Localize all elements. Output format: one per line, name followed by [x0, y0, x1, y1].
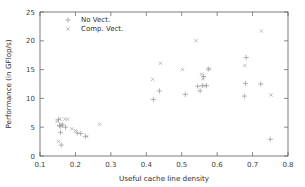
x-axis-ticks: 0.10.20.30.40.50.60.70.8: [34, 12, 293, 169]
data-point-cross: [201, 77, 204, 80]
series-plus: [56, 55, 273, 148]
x-tick-label: 0.5: [176, 161, 187, 169]
x-axis-title: Useful cache line density: [119, 174, 210, 183]
series-cross: [55, 29, 272, 143]
data-point-plus: [268, 137, 273, 142]
legend-label: No Vect.: [81, 16, 110, 24]
data-point-cross: [66, 27, 69, 30]
y-tick-label: 20: [26, 37, 35, 45]
x-tick-label: 0.4: [141, 161, 153, 169]
y-tick-label: 10: [26, 95, 35, 103]
data-point-cross: [194, 39, 197, 42]
y-axis-ticks: 0510152025: [26, 9, 288, 161]
data-point-plus: [78, 131, 83, 136]
x-tick-label: 0.6: [212, 161, 224, 169]
x-tick-label: 0.8: [282, 161, 293, 169]
scatter-chart-figure: 0.10.20.30.40.50.60.70.8 0510152025 No V…: [0, 0, 305, 187]
x-tick-label: 0.2: [70, 161, 81, 169]
data-point-cross: [260, 29, 263, 32]
data-point-cross: [98, 123, 101, 126]
data-point-cross: [151, 78, 154, 81]
data-point-plus: [198, 88, 203, 93]
chart-legend: No Vect.Comp. Vect.: [65, 16, 123, 33]
data-point-plus: [244, 55, 249, 60]
data-point-plus: [59, 142, 64, 147]
data-points-layer: [55, 29, 273, 147]
y-tick-label: 5: [31, 124, 35, 132]
data-point-plus: [243, 81, 248, 86]
data-point-plus: [206, 66, 211, 71]
data-point-cross: [159, 62, 162, 65]
data-point-plus: [157, 88, 162, 93]
x-tick-label: 0.3: [105, 161, 116, 169]
data-point-cross: [269, 93, 272, 96]
data-point-cross: [243, 64, 246, 67]
y-axis-title: Performance (in GFlop/s): [4, 39, 13, 128]
data-point-plus: [242, 93, 247, 98]
plot-svg: 0.10.20.30.40.50.60.70.8 0510152025 No V…: [0, 0, 305, 187]
data-point-plus: [258, 81, 263, 86]
data-point-cross: [74, 129, 77, 132]
data-point-cross: [70, 127, 73, 130]
data-point-cross: [57, 140, 60, 143]
x-tick-label: 0.1: [34, 161, 45, 169]
data-point-cross: [181, 68, 184, 71]
y-tick-label: 15: [26, 66, 35, 74]
y-tick-label: 0: [31, 153, 35, 161]
data-point-cross: [200, 72, 203, 75]
x-tick-label: 0.7: [247, 161, 258, 169]
data-point-plus: [151, 97, 156, 102]
data-point-cross: [66, 117, 69, 120]
data-point-plus: [58, 130, 63, 135]
y-tick-label: 25: [26, 9, 35, 17]
data-point-plus: [195, 84, 200, 89]
data-point-plus: [183, 92, 188, 97]
data-point-plus: [65, 17, 70, 22]
legend-label: Comp. Vect.: [81, 25, 123, 33]
